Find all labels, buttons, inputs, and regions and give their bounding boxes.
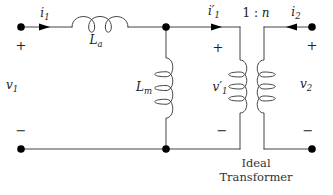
terminal-node-bottom-left <box>17 145 25 153</box>
junction-node-bottom-middle <box>162 145 170 153</box>
label-i2: i2 <box>291 6 300 21</box>
polarity-minus-v2: − <box>303 124 314 137</box>
inductor-la-coil <box>72 17 128 33</box>
inductor-lm-coil <box>155 27 173 149</box>
current-arrow-i2 <box>286 24 297 31</box>
polarity-plus-v1: + <box>16 39 27 52</box>
current-arrow-i1 <box>39 24 50 31</box>
terminal-node-top-left <box>17 23 25 31</box>
junction-node-top-middle <box>162 23 170 31</box>
caption-line2: Transformer <box>219 170 292 184</box>
label-i1-prime: i′1 <box>208 5 220 20</box>
terminal-node-top-right <box>308 23 316 31</box>
terminal-node-bottom-right <box>308 145 316 153</box>
caption-ideal-transformer: Ideal Transformer <box>219 156 292 184</box>
label-v1-prime: v′1 <box>213 81 228 96</box>
circuit-diagram: i1 i′1 i2 La Lm 1 : n v1 v′1 v2 + − + − … <box>0 0 333 195</box>
polarity-minus-v1: − <box>16 124 27 137</box>
label-v2: v2 <box>300 78 312 93</box>
label-i1: i1 <box>40 7 49 22</box>
current-arrow-i1p <box>211 24 222 31</box>
transformer-primary-coil <box>229 27 247 149</box>
polarity-plus-v1-prime: + <box>213 41 224 54</box>
caption-line1: Ideal <box>219 156 292 170</box>
label-v1: v1 <box>6 79 18 94</box>
label-la: La <box>89 34 102 49</box>
polarity-plus-v2: + <box>307 39 318 52</box>
label-turns-ratio: 1 : n <box>242 7 269 19</box>
label-lm: Lm <box>136 81 152 96</box>
transformer-secondary-coil <box>257 27 275 149</box>
polarity-minus-v1-prime: − <box>217 124 228 137</box>
